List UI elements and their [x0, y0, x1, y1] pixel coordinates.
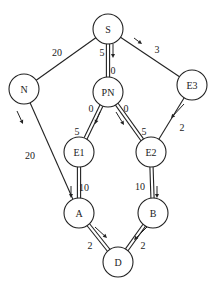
node-label: E3	[186, 80, 197, 91]
edge-weight-label: 2	[180, 122, 185, 133]
edge-pn-e2	[115, 103, 143, 140]
node-label: D	[114, 257, 121, 268]
nodes-layer: SNPNE3E1E2ABD	[9, 14, 207, 277]
flow-arrow-icon	[111, 44, 115, 58]
edge-weight-label: 2	[141, 240, 146, 251]
node-a: A	[64, 198, 94, 228]
node-label: E2	[145, 147, 156, 158]
flow-arrow-icon	[134, 38, 142, 44]
node-label: A	[75, 208, 83, 219]
flow-arrow-icon	[155, 186, 159, 198]
edge-e3-e2	[159, 98, 184, 139]
edge-weight-label: 10	[79, 182, 89, 193]
edge-weight-label: 0	[111, 65, 116, 76]
node-pn: PN	[93, 77, 123, 107]
edge-s-n	[36, 38, 96, 81]
edge-weight-label: 5	[142, 126, 147, 137]
node-e3: E3	[177, 70, 207, 100]
edge-e2-b	[150, 167, 154, 198]
node-e2: E2	[136, 137, 166, 167]
edge-weight-label: 20	[52, 47, 62, 58]
edge-pn-e1	[84, 105, 103, 139]
node-b: B	[138, 198, 168, 228]
node-label: N	[20, 84, 27, 95]
edge-weight-label: 3	[155, 44, 160, 55]
flow-arrow-icon	[116, 112, 124, 125]
edge-weight-label: 10	[135, 181, 145, 192]
edge-weight-label: 2	[88, 240, 93, 251]
node-label: S	[105, 24, 111, 35]
node-label: E1	[73, 147, 84, 158]
node-s: S	[93, 14, 123, 44]
edge-weight-label: 0	[124, 103, 129, 114]
edge-weight-label: 0	[89, 103, 94, 114]
flow-arrow-icon	[17, 111, 23, 124]
node-label: PN	[102, 87, 115, 98]
edge-weight-label: 20	[25, 150, 35, 161]
node-d: D	[103, 247, 133, 277]
node-label: B	[150, 208, 157, 219]
edge-weight-label: 5	[100, 47, 105, 58]
edge-s-e3	[120, 37, 179, 76]
graph-diagram: 205300055220101022 SNPNE3E1E2ABD	[0, 0, 214, 285]
flow-arrow-icon	[171, 104, 184, 118]
edge-weight-label: 5	[75, 126, 80, 137]
edge-s-pn	[106, 44, 109, 77]
node-e1: E1	[64, 137, 94, 167]
node-n: N	[9, 74, 39, 104]
